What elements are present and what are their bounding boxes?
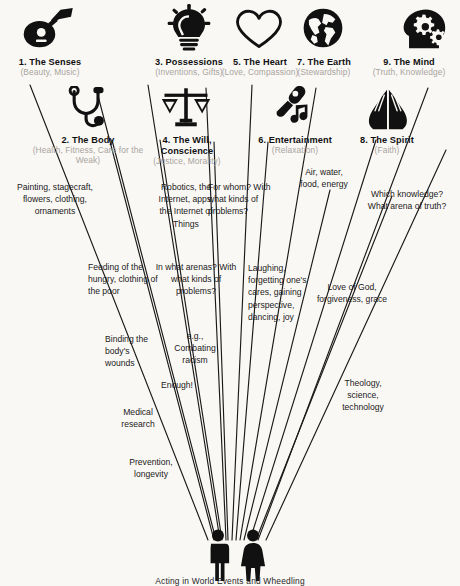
head-gears-icon <box>398 6 450 50</box>
note-laughing: Laughing, forgetting one's cares, gainin… <box>248 262 308 323</box>
heading-entertainment[interactable]: 6. Entertainment (Relaxation) <box>233 135 357 156</box>
praying-hands-icon <box>362 86 412 132</box>
microphone-music-icon <box>268 86 320 130</box>
note-robotics: Robotics, the Internet, apps, the Intern… <box>156 181 216 230</box>
heading-will[interactable]: 4. The Will, Conscience (Justice, Morali… <box>144 135 230 167</box>
note-feeding-hungry: Feeding of the hungry, clothing of the p… <box>88 261 158 298</box>
note-painting: Painting, stagecraft, flowers, clothing,… <box>12 181 98 218</box>
heading-earth[interactable]: 7. The Earth (Stewardship) <box>278 57 370 78</box>
note-for-whom: For whom? With what kinds of problems? <box>208 181 274 218</box>
scales-icon <box>160 86 212 130</box>
heading-earth-subtitle: (Stewardship) <box>278 68 370 78</box>
note-in-what-arenas: In what arenas? With what kinds of probl… <box>150 261 242 298</box>
woman-pictogram <box>240 529 266 581</box>
heading-spirit[interactable]: 8. The Spirit (Faith) <box>340 135 434 156</box>
man-pictogram <box>205 529 231 581</box>
note-medical-research: Medical research <box>108 406 168 430</box>
heart-icon <box>232 6 286 50</box>
lightbulb-icon <box>164 4 214 52</box>
diagram-caption: Acting in World Events and Wheedling <box>0 576 460 586</box>
note-prevention: Prevention, longevity <box>118 456 184 480</box>
heading-mind-subtitle: (Truth, Knowledge) <box>358 68 460 78</box>
heading-body[interactable]: 2. The Body (Health, Fitness, Care for t… <box>30 135 146 166</box>
note-air-water: Air, water, food, energy <box>300 166 348 190</box>
note-which-knowledge: Which knowledge? What arena of truth? <box>364 188 450 212</box>
note-combating-racism: e.g., Combating racism <box>166 330 224 367</box>
heading-entertainment-subtitle: (Relaxation) <box>233 146 357 156</box>
heading-mind[interactable]: 9. The Mind (Truth, Knowledge) <box>358 57 460 78</box>
ray-spirit-b <box>256 196 392 540</box>
note-love-of-god: Love of God, forgiveness, grace <box>316 281 388 305</box>
note-binding-wounds: Binding the body's wounds <box>105 333 161 370</box>
heading-will-title: 4. The Will, Conscience <box>144 135 230 157</box>
note-theology: Theology, science, technology <box>328 377 398 414</box>
stethoscope-icon <box>62 86 112 130</box>
heading-body-subtitle: (Health, Fitness, Care for the Weak) <box>30 146 146 166</box>
heading-senses[interactable]: 1. The Senses (Beauty, Music) <box>0 57 100 78</box>
guitar-icon <box>22 6 78 50</box>
globe-icon <box>300 6 346 50</box>
ray-earth-b <box>244 190 330 540</box>
note-enough: Enough! <box>148 379 206 391</box>
heading-will-subtitle: (Justice, Morality) <box>144 157 230 167</box>
heading-spirit-subtitle: (Faith) <box>340 146 434 156</box>
heading-senses-subtitle: (Beauty, Music) <box>0 68 100 78</box>
